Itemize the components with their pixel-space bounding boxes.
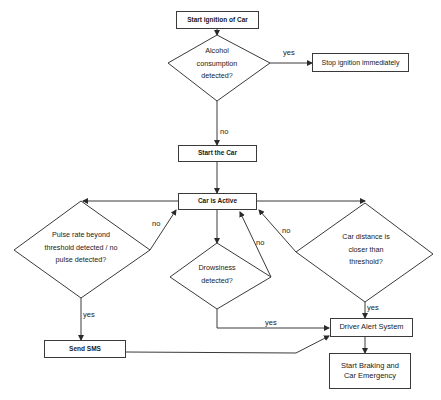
send-sms-box: Send SMS bbox=[44, 340, 126, 358]
pulse-no-label: no bbox=[152, 219, 160, 228]
distance-decision-label: Car distance is closer than threshold? bbox=[333, 231, 399, 269]
pulse-yes-label: yes bbox=[83, 310, 95, 319]
distance-no-label: no bbox=[282, 226, 290, 235]
stop-ignition-box: Stop ignition immediately bbox=[312, 53, 409, 72]
pulse-decision-label: Pulse rate beyond threshold detected / n… bbox=[44, 229, 118, 267]
drowsiness-decision-label: Drowsiness detected? bbox=[190, 262, 244, 287]
start-car-box: Start the Car bbox=[178, 145, 257, 162]
car-active-label: Car is Active bbox=[198, 197, 237, 206]
alcohol-no-label: no bbox=[220, 127, 228, 136]
alcohol-yes-label: yes bbox=[283, 48, 295, 57]
braking-box: Start Braking and Car Emergency bbox=[329, 353, 411, 389]
distance-yes-label: yes bbox=[367, 303, 379, 312]
alcohol-decision-label: Alcohol consumption detected? bbox=[187, 45, 247, 83]
car-active-box: Car is Active bbox=[178, 193, 257, 210]
driver-alert-label: Driver Alert System bbox=[339, 322, 403, 332]
drowsiness-yes-label: yes bbox=[265, 318, 277, 327]
driver-alert-box: Driver Alert System bbox=[330, 318, 413, 337]
start-ignition-box: Start ignition of Car bbox=[176, 11, 259, 29]
drowsiness-no-label: no bbox=[256, 238, 264, 247]
start-car-label: Start the Car bbox=[198, 149, 237, 158]
start-ignition-label: Start ignition of Car bbox=[187, 16, 248, 25]
stop-ignition-label: Stop ignition immediately bbox=[322, 58, 400, 67]
send-sms-label: Send SMS bbox=[69, 345, 101, 354]
braking-label: Start Braking and Car Emergency bbox=[338, 361, 402, 381]
